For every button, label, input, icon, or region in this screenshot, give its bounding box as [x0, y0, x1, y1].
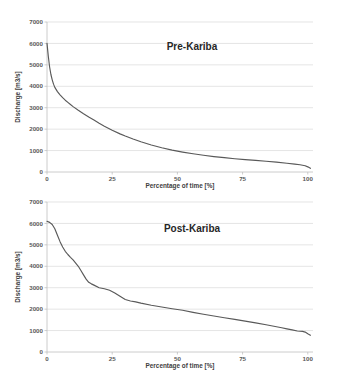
chart-title: Pre-Kariba: [167, 41, 218, 52]
y-tick-label: 4000: [29, 262, 43, 269]
y-tick-label: 7000: [29, 18, 43, 25]
x-tick-label: 50: [174, 175, 181, 182]
x-axis-title: Percentage of time [%]: [146, 362, 215, 370]
figure-container: 010002000300040005000600070000255075100P…: [0, 0, 338, 387]
x-axis-title: Percentage of time [%]: [146, 182, 215, 190]
chart-post-kariba: 010002000300040005000600070000255075100P…: [0, 190, 338, 387]
data-curve: [47, 43, 310, 168]
x-tick-label: 25: [109, 355, 116, 362]
x-tick-label: 50: [174, 355, 181, 362]
x-tick-label: 100: [303, 355, 314, 362]
y-tick-label: 4000: [29, 82, 43, 89]
x-tick-label: 25: [109, 175, 116, 182]
y-tick-label: 5000: [29, 241, 43, 248]
x-tick-label: 100: [303, 175, 314, 182]
y-tick-label: 1000: [29, 147, 43, 154]
x-tick-label: 75: [239, 355, 246, 362]
x-tick-label: 0: [45, 175, 49, 182]
y-axis-title: Discharge [m3/s]: [14, 71, 22, 123]
data-curve: [47, 221, 310, 335]
y-tick-label: 3000: [29, 104, 43, 111]
y-tick-label: 2000: [29, 125, 43, 132]
y-tick-label: 7000: [29, 198, 43, 205]
y-axis-title: Discharge [m3/s]: [14, 251, 22, 303]
chart-pre-kariba: 010002000300040005000600070000255075100P…: [0, 4, 338, 194]
chart-title: Post-Kariba: [164, 223, 221, 234]
y-tick-label: 0: [40, 348, 44, 355]
y-tick-label: 2000: [29, 305, 43, 312]
y-tick-label: 5000: [29, 61, 43, 68]
y-tick-label: 6000: [29, 220, 43, 227]
y-tick-label: 3000: [29, 284, 43, 291]
chart-pre-kariba-svg: 010002000300040005000600070000255075100P…: [0, 4, 338, 194]
y-tick-label: 1000: [29, 327, 43, 334]
y-tick-label: 0: [40, 168, 44, 175]
y-tick-label: 6000: [29, 40, 43, 47]
chart-post-kariba-svg: 010002000300040005000600070000255075100P…: [0, 190, 338, 387]
x-tick-label: 75: [239, 175, 246, 182]
x-tick-label: 0: [45, 355, 49, 362]
